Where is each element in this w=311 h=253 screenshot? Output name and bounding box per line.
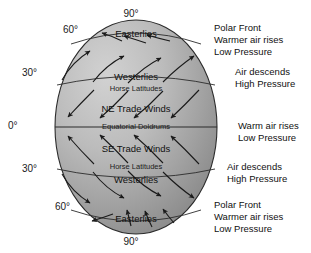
- wind-band-label-polar-easterlies-south: Easterlies: [115, 213, 157, 224]
- annotation-line: Low Pressure: [214, 46, 283, 58]
- latitude-label-north-pole: 90°: [123, 8, 138, 19]
- annotation-south-polar-front: Polar FrontWarmer air risesLow Pressure: [214, 199, 283, 236]
- wind-band-label-ne-trade-winds: NE Trade Winds: [101, 103, 170, 114]
- wind-band-label-equatorial-doldrums: Equatorial Doldrums: [102, 122, 170, 131]
- annotation-line: Warmer air rises: [214, 211, 283, 223]
- annotation-equatorial-low: Warm air risesLow Pressure: [238, 120, 299, 144]
- wind-band-label-westerlies-south: Westerlies: [114, 174, 158, 185]
- annotation-line: High Pressure: [235, 78, 295, 90]
- annotation-line: Warm air rises: [238, 120, 299, 132]
- wind-band-label-horse-latitudes-north: Horse Latitudes: [110, 84, 163, 93]
- annotation-north-subtropical-high: Air descendsHigh Pressure: [235, 66, 295, 90]
- latitude-label-north-60: 60°: [63, 24, 78, 35]
- wind-band-label-horse-latitudes-south: Horse Latitudes: [110, 162, 163, 171]
- annotation-line: Air descends: [235, 66, 295, 78]
- annotation-north-polar-front: Polar FrontWarmer air risesLow Pressure: [214, 22, 283, 59]
- annotation-line: High Pressure: [227, 173, 287, 185]
- wind-band-label-polar-easterlies-north: Easterlies: [115, 28, 157, 39]
- annotation-line: Low Pressure: [238, 132, 299, 144]
- latitude-label-north-30: 30°: [22, 67, 37, 78]
- wind-circulation-diagram: 90°60°30°0°30°60°90° EasterliesWesterlie…: [0, 0, 311, 253]
- annotation-line: Polar Front: [214, 22, 283, 34]
- annotation-line: Air descends: [227, 161, 287, 173]
- latitude-label-equator: 0°: [8, 120, 18, 131]
- annotation-south-subtropical-high: Air descendsHigh Pressure: [227, 161, 287, 185]
- latitude-label-south-pole: 90°: [123, 236, 138, 247]
- annotation-line: Polar Front: [214, 199, 283, 211]
- latitude-label-south-30: 30°: [22, 163, 37, 174]
- wind-band-label-westerlies-north: Westerlies: [114, 71, 158, 82]
- wind-band-label-se-trade-winds: SE Trade Winds: [102, 143, 171, 154]
- latitude-label-south-60: 60°: [55, 201, 70, 212]
- annotation-line: Warmer air rises: [214, 34, 283, 46]
- annotation-line: Low Pressure: [214, 223, 283, 235]
